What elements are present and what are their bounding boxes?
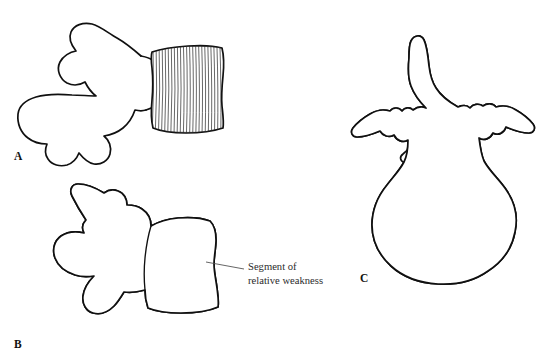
panel-letter-b: B: [14, 338, 22, 350]
callout-label-line-2: relative weakness: [248, 275, 323, 286]
callout-label-line-1: Segment of: [248, 261, 297, 272]
figure-root: Segment of relative weakness A B C: [0, 0, 552, 358]
panel-letter-c: C: [360, 272, 368, 284]
panel-letter-a: A: [14, 150, 23, 162]
vertebra-figure-canvas: Segment of relative weakness A B C: [0, 0, 552, 358]
